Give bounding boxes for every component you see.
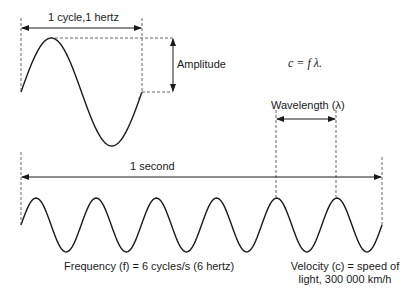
cycle-label: 1 cycle,1 hertz [48,11,119,24]
wave-diagram [0,0,409,300]
velocity-line-1: Velocity (c) = speed of [290,260,400,273]
second-label: 1 second [130,160,175,173]
velocity-line-2: light, 300 000 km/h [290,273,400,286]
small-sine-wave [21,198,382,252]
large-sine-wave [21,38,142,146]
large-wave-guides [21,18,173,100]
wavelength-label: Wavelength (λ) [271,99,345,112]
velocity-label: Velocity (c) = speed of light, 300 000 k… [290,260,400,286]
formula-label: c = f λ. [288,57,322,70]
amplitude-label: Amplitude [177,58,226,71]
frequency-label: Frequency (f) = 6 cycles/s (6 hertz) [64,260,234,273]
